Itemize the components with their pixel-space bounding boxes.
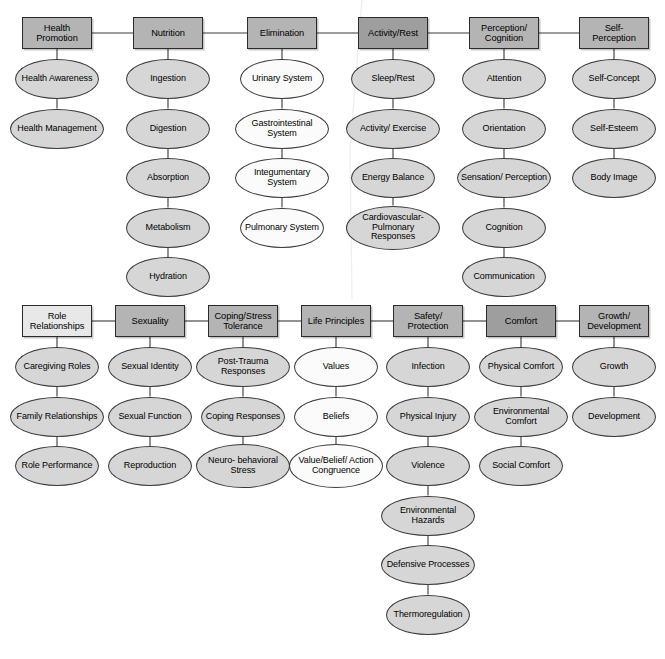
domain-box-life-principles[interactable]: Life Principles — [301, 305, 371, 337]
class-hydration-label: Hydration — [147, 272, 189, 282]
domain-box-nutrition[interactable]: Nutrition — [133, 17, 203, 49]
domain-box-life-principles-label: Life Principles — [306, 316, 366, 326]
class-value-belief-action-congruence[interactable]: Value/Belief/ Action Congruence — [289, 444, 383, 488]
domain-box-activity-rest-label: Activity/Rest — [366, 28, 420, 38]
class-sexual-function-label: Sexual Function — [116, 412, 183, 422]
domain-box-growth-development[interactable]: Growth/ Development — [579, 305, 649, 337]
class-pulmonary-system[interactable]: Pulmonary System — [240, 208, 324, 248]
class-reproduction-label: Reproduction — [122, 461, 178, 471]
class-digestion-label: Digestion — [148, 124, 189, 134]
class-cognition[interactable]: Cognition — [462, 208, 546, 248]
class-family-relationships[interactable]: Family Relationships — [10, 397, 104, 437]
class-sexual-function[interactable]: Sexual Function — [108, 397, 192, 437]
class-integumentary-system[interactable]: Integumentary System — [235, 158, 329, 198]
class-health-awareness[interactable]: Health Awareness — [15, 59, 99, 99]
class-caregiving-roles-label: Caregiving Roles — [22, 362, 93, 372]
domain-box-role-relationships[interactable]: Role Relationships — [22, 305, 92, 337]
class-health-management[interactable]: Health Management — [10, 109, 104, 149]
class-sleep-rest[interactable]: Sleep/Rest — [351, 59, 435, 99]
class-energy-balance[interactable]: Energy Balance — [351, 158, 435, 198]
class-coping-responses[interactable]: Coping Responses — [201, 397, 285, 437]
domain-box-health-promotion-label: Health Promotion — [23, 23, 91, 43]
class-thermoregulation-label: Thermoregulation — [392, 610, 465, 620]
class-physical-comfort-label: Physical Comfort — [486, 362, 556, 372]
domain-box-health-promotion[interactable]: Health Promotion — [22, 17, 92, 49]
class-sleep-rest-label: Sleep/Rest — [369, 74, 416, 84]
class-orientation-label: Orientation — [481, 124, 528, 134]
class-attention-label: Attention — [485, 74, 524, 84]
class-growth[interactable]: Growth — [572, 347, 656, 387]
class-defensive-processes[interactable]: Defensive Processes — [381, 545, 475, 585]
class-self-concept-label: Self-Concept — [587, 74, 642, 84]
class-body-image[interactable]: Body Image — [572, 158, 656, 198]
class-development-label: Development — [586, 412, 642, 422]
class-orientation[interactable]: Orientation — [462, 109, 546, 149]
domain-box-activity-rest[interactable]: Activity/Rest — [358, 17, 428, 49]
domain-box-safety-protection-label: Safety/ Protection — [394, 311, 462, 331]
class-sexual-identity-label: Sexual Identity — [119, 362, 181, 372]
class-cardiovascular-pulmonary-responses[interactable]: Cardiovascular- Pulmonary Responses — [346, 206, 440, 250]
domain-box-elimination-label: Elimination — [258, 28, 306, 38]
class-ingestion[interactable]: Ingestion — [126, 59, 210, 99]
class-communication-label: Communication — [471, 272, 536, 282]
domain-box-perception-cognition[interactable]: Perception/ Cognition — [469, 17, 539, 49]
class-physical-injury-label: Physical Injury — [398, 412, 459, 422]
class-role-performance[interactable]: Role Performance — [15, 446, 99, 486]
class-sensation-perception[interactable]: Sensation/ Perception — [457, 158, 551, 198]
class-beliefs[interactable]: Beliefs — [294, 397, 378, 437]
domain-box-comfort[interactable]: Comfort — [486, 305, 556, 337]
class-sexual-identity[interactable]: Sexual Identity — [108, 347, 192, 387]
class-hydration[interactable]: Hydration — [126, 257, 210, 297]
class-urinary-system-label: Urinary System — [250, 74, 314, 84]
class-attention[interactable]: Attention — [462, 59, 546, 99]
class-social-comfort[interactable]: Social Comfort — [479, 446, 563, 486]
domain-box-self-perception[interactable]: Self- Perception — [579, 17, 649, 49]
class-infection[interactable]: Infection — [386, 347, 470, 387]
class-infection-label: Infection — [409, 362, 446, 372]
class-ingestion-label: Ingestion — [148, 74, 188, 84]
domain-box-safety-protection[interactable]: Safety/ Protection — [393, 305, 463, 337]
class-gastrointestinal-system[interactable]: Gastrointestinal System — [235, 109, 329, 149]
class-urinary-system[interactable]: Urinary System — [240, 59, 324, 99]
class-activity-exercise[interactable]: Activity/ Exercise — [346, 109, 440, 149]
domain-box-sexuality[interactable]: Sexuality — [115, 305, 185, 337]
class-physical-comfort[interactable]: Physical Comfort — [479, 347, 563, 387]
class-health-management-label: Health Management — [15, 124, 98, 134]
class-defensive-processes-label: Defensive Processes — [385, 560, 472, 570]
class-development[interactable]: Development — [572, 397, 656, 437]
class-reproduction[interactable]: Reproduction — [108, 446, 192, 486]
class-post-trauma-responses[interactable]: Post-Trauma Responses — [196, 347, 290, 387]
class-environmental-hazards[interactable]: Environmental Hazards — [381, 496, 475, 536]
class-energy-balance-label: Energy Balance — [360, 173, 426, 183]
class-self-esteem[interactable]: Self-Esteem — [572, 109, 656, 149]
class-coping-responses-label: Coping Responses — [204, 412, 282, 422]
class-physical-injury[interactable]: Physical Injury — [386, 397, 470, 437]
class-communication[interactable]: Communication — [462, 257, 546, 297]
class-self-concept[interactable]: Self-Concept — [572, 59, 656, 99]
class-metabolism[interactable]: Metabolism — [126, 208, 210, 248]
class-values-label: Values — [321, 362, 351, 372]
class-violence-label: Violence — [409, 461, 447, 471]
class-digestion[interactable]: Digestion — [126, 109, 210, 149]
class-absorption[interactable]: Absorption — [126, 158, 210, 198]
class-cognition-label: Cognition — [483, 223, 524, 233]
domain-box-elimination[interactable]: Elimination — [247, 17, 317, 49]
class-activity-exercise-label: Activity/ Exercise — [358, 124, 428, 134]
class-environmental-comfort[interactable]: Environmental Comfort — [474, 397, 568, 437]
class-neuro-behavioral-stress[interactable]: Neuro- behavioral Stress — [196, 444, 290, 488]
class-family-relationships-label: Family Relationships — [14, 412, 99, 422]
class-values[interactable]: Values — [294, 347, 378, 387]
domain-box-self-perception-label: Self- Perception — [580, 23, 648, 43]
class-beliefs-label: Beliefs — [321, 412, 351, 422]
class-caregiving-roles[interactable]: Caregiving Roles — [15, 347, 99, 387]
class-thermoregulation[interactable]: Thermoregulation — [386, 595, 470, 635]
class-health-awareness-label: Health Awareness — [20, 74, 95, 84]
class-self-esteem-label: Self-Esteem — [588, 124, 640, 134]
domain-box-coping-stress-tolerance[interactable]: Coping/Stress Tolerance — [208, 305, 278, 337]
class-pulmonary-system-label: Pulmonary System — [243, 223, 321, 233]
class-environmental-hazards-label: Environmental Hazards — [382, 506, 474, 525]
class-gastrointestinal-system-label: Gastrointestinal System — [236, 119, 328, 138]
class-violence[interactable]: Violence — [386, 446, 470, 486]
class-absorption-label: Absorption — [145, 173, 191, 183]
class-neuro-behavioral-stress-label: Neuro- behavioral Stress — [197, 456, 289, 475]
